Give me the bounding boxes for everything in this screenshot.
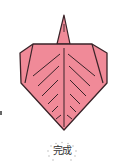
completion-badge: 完成: [44, 141, 80, 163]
completion-label: 完成: [44, 145, 80, 157]
leaf-stem: [57, 15, 70, 44]
